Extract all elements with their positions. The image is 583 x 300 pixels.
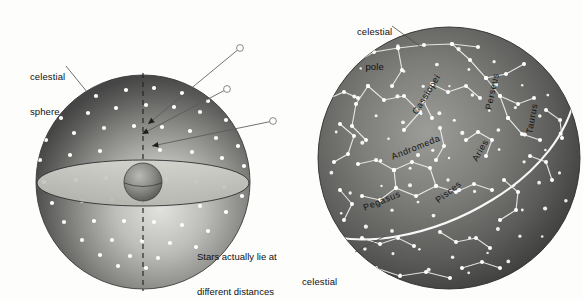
- star-dot: [220, 156, 224, 160]
- label-celestial-equator-line1: celestial: [302, 276, 337, 288]
- globe-star-dot: [560, 136, 564, 140]
- label-celestial-pole: celestial pole: [357, 3, 392, 84]
- star-dot: [72, 131, 76, 135]
- globe-star-dot: [521, 84, 523, 86]
- globe-star-dot: [356, 96, 360, 100]
- globe-star-dot: [564, 199, 568, 203]
- star-dot: [198, 204, 202, 208]
- globe-star-dot: [438, 230, 442, 234]
- globe-star-dot: [448, 157, 450, 159]
- globe-star-dot: [473, 190, 476, 193]
- globe-star-dot: [474, 236, 478, 240]
- star-dot: [156, 256, 160, 260]
- globe-star-dot: [454, 240, 458, 244]
- globe-star-dot: [502, 178, 506, 182]
- globe-star-dot: [486, 252, 488, 254]
- globe-star-dot: [472, 182, 476, 186]
- globe-star-dot: [522, 160, 525, 163]
- globe-star-dot: [330, 171, 334, 175]
- globe-star-dot: [451, 255, 455, 259]
- globe-star-dot: [422, 43, 426, 47]
- globe-star-dot: [446, 90, 450, 94]
- star-dot: [110, 238, 114, 242]
- star-dot: [190, 150, 194, 154]
- star-dot: [158, 148, 162, 152]
- globe-star-dot: [428, 166, 432, 170]
- globe-star-dot: [471, 93, 475, 97]
- star-dot: [94, 94, 98, 98]
- globe-star-dot: [450, 42, 454, 46]
- globe-star-dot: [364, 225, 368, 229]
- globe-star-dot: [360, 236, 364, 240]
- globe-star-dot: [559, 131, 563, 135]
- globe-star-dot: [480, 260, 484, 264]
- globe-star-dot: [506, 116, 510, 120]
- globe-star-dot: [431, 149, 434, 152]
- globe-star-dot: [354, 102, 358, 106]
- globe-star-dot: [467, 271, 470, 274]
- label-celestial-sphere: celestial sphere: [30, 48, 65, 129]
- globe-star-dot: [414, 194, 418, 198]
- globe-star-dot: [497, 128, 501, 132]
- globe-star-dot: [408, 183, 412, 187]
- globe-star-dot: [380, 185, 382, 187]
- globe-star-dot: [460, 266, 464, 270]
- globe-star-dot: [453, 119, 456, 122]
- globe-star-dot: [457, 47, 461, 51]
- globe-star-dot: [374, 158, 378, 162]
- globe-star-dot: [521, 209, 524, 212]
- star-dot: [144, 103, 148, 107]
- label-celestial-sphere-line2: sphere: [30, 106, 65, 118]
- star-dot: [152, 220, 156, 224]
- globe-star-dot: [516, 102, 520, 106]
- star-dot: [50, 201, 54, 205]
- distant-star-circle: [224, 86, 231, 93]
- globe-star-dot: [504, 72, 508, 76]
- globe-star-dot: [488, 246, 492, 250]
- globe-star-dot: [434, 184, 438, 188]
- label-celestial-pole-line1: celestial: [357, 26, 392, 38]
- label-celestial-pole-line2: pole: [357, 61, 392, 73]
- star-dot: [152, 86, 156, 90]
- distant-star-circle: [270, 118, 277, 125]
- globe-star-dot: [356, 162, 360, 166]
- globe-star-dot: [352, 134, 356, 138]
- star-dot: [168, 241, 172, 245]
- star-dot: [144, 266, 148, 270]
- globe-star-dot: [340, 212, 343, 215]
- globe-star-dot: [390, 84, 394, 88]
- globe-star-dot: [390, 209, 393, 212]
- globe-star-dot: [464, 138, 468, 142]
- globe-star-dot: [402, 128, 406, 132]
- star-dot: [188, 129, 192, 133]
- globe-star-dot: [430, 116, 434, 120]
- globe-star-dot: [395, 94, 399, 98]
- globe-star-dot: [396, 44, 400, 48]
- globe-star-dot: [513, 184, 515, 186]
- star-dot: [122, 219, 126, 223]
- globe-star-dot: [435, 63, 439, 67]
- star-dot: [86, 111, 90, 115]
- caption-line-1: Stars actually lie at: [197, 251, 279, 263]
- star-dot: [224, 210, 228, 214]
- star-dot: [180, 223, 184, 227]
- globe-star-dot: [335, 131, 338, 134]
- star-dot: [80, 238, 84, 242]
- star-dot: [116, 264, 120, 268]
- globe-star-dot: [391, 252, 394, 255]
- globe-star-dot: [478, 96, 482, 100]
- globe-star-dot: [468, 58, 472, 62]
- globe-star-dot: [332, 160, 336, 164]
- globe-star-dot: [432, 214, 436, 218]
- globe-star-dot: [514, 106, 517, 109]
- diagram-svg: [0, 0, 583, 300]
- globe-star-dot: [541, 235, 544, 238]
- globe-star-dot: [418, 248, 421, 251]
- globe-star-dot: [476, 130, 480, 134]
- globe-star-dot: [382, 98, 386, 102]
- star-dot: [124, 88, 128, 92]
- globe-star-dot: [342, 90, 346, 94]
- globe-star-dot: [558, 171, 561, 174]
- star-dot: [68, 153, 72, 157]
- star-dot: [240, 194, 244, 198]
